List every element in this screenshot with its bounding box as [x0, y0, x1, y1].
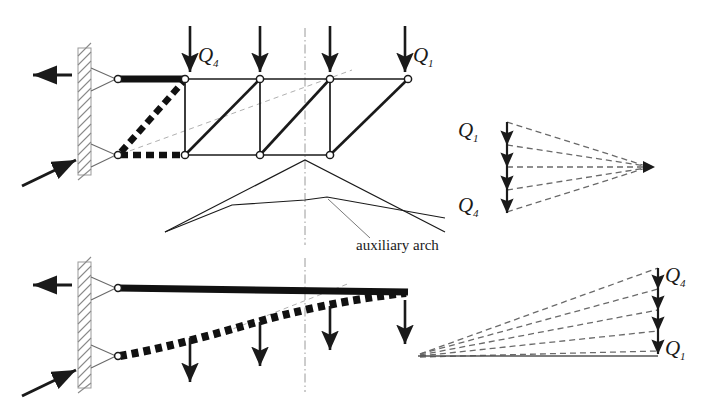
upper-supports [91, 68, 116, 167]
upper-label-q1-subscript: 1 [428, 57, 434, 69]
upper-dashed-diagonal-member [121, 82, 183, 152]
figure-root: Q 4 Q 1 auxiliary arch Q 1 [0, 0, 705, 406]
upper-polygon-rays [507, 122, 646, 212]
upper-verticals [185, 79, 330, 155]
upper-polygon-label-q1: Q [458, 118, 473, 142]
upper-force-polygon-group: Q 1 Q 4 [458, 118, 655, 219]
upper-reference-line [113, 70, 352, 157]
lower-polygon-label-q4-subscript: 4 [680, 277, 686, 289]
upper-label-q4: Q [198, 43, 213, 67]
lower-truss-group [22, 257, 408, 396]
lower-top-chord-bold [118, 288, 408, 292]
lower-polygon-label-q1-subscript: 1 [680, 350, 686, 362]
upper-label-q1: Q [413, 43, 428, 67]
upper-truss-group: Q 4 Q 1 [22, 26, 434, 245]
lower-polygon-label-q4: Q [665, 263, 680, 287]
upper-reaction-arrow-upright [22, 160, 76, 186]
diagram-canvas: Q 4 Q 1 auxiliary arch Q 1 [0, 0, 705, 406]
upper-polygon-label-q1-subscript: 1 [473, 132, 479, 144]
upper-label-q4-subscript: 4 [213, 57, 219, 69]
upper-diagonals [185, 79, 408, 155]
upper-polygon-pole [643, 161, 655, 173]
auxiliary-arch-label: auxiliary arch [356, 237, 439, 253]
lower-joints [115, 285, 122, 360]
lower-polygon-rays [420, 268, 658, 357]
auxiliary-arch-leader [328, 199, 370, 238]
upper-wall [78, 43, 91, 180]
lower-force-polygon-group: Q 4 Q 1 [418, 263, 686, 362]
upper-joints [114, 75, 411, 158]
lower-supports [91, 277, 116, 368]
lower-wall [78, 257, 91, 393]
lower-reaction-arrow-upright [22, 370, 76, 396]
lower-curved-chord-dashed [120, 293, 406, 356]
upper-load-arrows [190, 26, 405, 72]
upper-polygon-label-q4-subscript: 4 [473, 207, 479, 219]
upper-polygon-label-q4: Q [458, 193, 473, 217]
lower-polygon-label-q1: Q [665, 336, 680, 360]
